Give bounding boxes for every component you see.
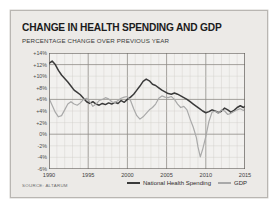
- y-axis-tick-label: +4%: [36, 108, 47, 114]
- x-axis-tick-label: 2005: [160, 172, 172, 178]
- chart-plot-area: +14%+12%+10%+8%+6%+4%+2%0%-2%-4%-6%19901…: [49, 53, 245, 169]
- x-axis-tick-label: 2015: [239, 172, 251, 178]
- y-axis-tick-label: +10%: [33, 73, 47, 79]
- y-axis-tick-label: -2%: [38, 143, 47, 149]
- legend-swatch-health: [127, 182, 140, 184]
- legend-label-health: National Health Spending: [143, 180, 211, 186]
- legend-swatch-gdp: [218, 182, 231, 184]
- y-axis-tick-label: +14%: [33, 50, 47, 56]
- legend-label-gdp: GDP: [234, 180, 247, 186]
- chart-subtitle: PERCENTAGE CHANGE OVER PREVIOUS YEAR: [22, 37, 169, 44]
- line-chart-svg: [49, 53, 245, 169]
- y-axis-tick-label: +6%: [36, 96, 47, 102]
- y-axis-tick-label: -4%: [38, 154, 47, 160]
- chart-legend: National Health Spending GDP: [127, 180, 247, 186]
- x-axis-tick-label: 2010: [200, 172, 212, 178]
- y-axis-tick-label: 0%: [39, 131, 47, 137]
- chart-title: CHANGE IN HEALTH SPENDING AND GDP: [22, 21, 222, 33]
- y-axis-tick-label: +12%: [33, 62, 47, 68]
- legend-item-gdp: GDP: [218, 180, 247, 186]
- legend-item-health: National Health Spending: [127, 180, 211, 186]
- infographic-panel: CHANGE IN HEALTH SPENDING AND GDP PERCEN…: [10, 10, 268, 198]
- x-axis-tick-label: 2000: [121, 172, 133, 178]
- y-axis-tick-label: +2%: [36, 120, 47, 126]
- y-axis-tick-label: +8%: [36, 85, 47, 91]
- x-axis-tick-label: 1995: [82, 172, 94, 178]
- x-axis-tick-label: 1990: [43, 172, 55, 178]
- source-note: SOURCE: ALTARUM: [22, 183, 68, 188]
